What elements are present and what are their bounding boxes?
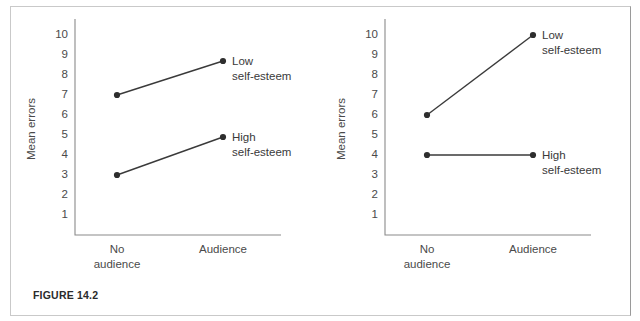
- x-axis-tick-label: No: [420, 243, 435, 255]
- series-line: [117, 61, 223, 95]
- chart-series: Lowself-esteem: [424, 29, 602, 118]
- series-data-point: [424, 112, 430, 118]
- chart-series: Highself-esteem: [114, 131, 292, 178]
- y-axis-title: Mean errors: [25, 98, 37, 160]
- y-axis-tick-label: 10: [55, 28, 68, 40]
- y-axis-tick-label: 9: [372, 48, 378, 60]
- series-inline-label: self-esteem: [542, 44, 601, 56]
- x-axis-tick-label: No: [110, 243, 125, 255]
- charts-row: 12345678910Mean errorsNoaudienceAudience…: [11, 7, 630, 282]
- y-axis-tick-label: 5: [372, 128, 378, 140]
- y-axis-tick-label: 7: [372, 88, 378, 100]
- y-axis-tick-label: 1: [62, 208, 68, 220]
- y-axis-tick-label: 2: [372, 188, 378, 200]
- series-data-point: [114, 92, 120, 98]
- chart-series: Highself-esteem: [424, 149, 602, 176]
- y-axis-tick-label: 5: [62, 128, 68, 140]
- y-axis-tick-label: 7: [62, 88, 68, 100]
- series-line: [117, 137, 223, 175]
- y-axis-tick-label: 8: [62, 68, 68, 80]
- chart-panel-right: 12345678910Mean errorsNoaudienceAudience…: [323, 7, 633, 282]
- series-data-point: [220, 134, 226, 140]
- y-axis-tick-label: 8: [372, 68, 378, 80]
- y-axis-tick-label: 6: [372, 108, 378, 120]
- y-axis-tick-label: 9: [62, 48, 68, 60]
- series-data-point: [530, 32, 536, 38]
- series-data-point: [530, 152, 536, 158]
- x-axis-tick-label: audience: [404, 258, 451, 270]
- y-axis-tick-label: 10: [365, 28, 378, 40]
- y-axis-tick-label: 3: [62, 168, 68, 180]
- series-inline-label: self-esteem: [542, 164, 601, 176]
- x-axis-tick-label: Audience: [199, 243, 247, 255]
- y-axis-tick-label: 1: [372, 208, 378, 220]
- x-axis-tick-label: audience: [94, 258, 141, 270]
- series-data-point: [220, 58, 226, 64]
- y-axis-title: Mean errors: [335, 98, 347, 160]
- series-inline-label: self-esteem: [232, 146, 291, 158]
- series-inline-label: Low: [232, 55, 254, 67]
- series-data-point: [424, 152, 430, 158]
- x-axis-tick-label: Audience: [509, 243, 557, 255]
- figure-caption: FIGURE 14.2: [33, 289, 98, 301]
- chart-axes: [75, 19, 281, 235]
- y-axis-tick-label: 2: [62, 188, 68, 200]
- series-data-point: [114, 172, 120, 178]
- y-axis-tick-label: 4: [372, 148, 379, 160]
- y-axis-tick-label: 6: [62, 108, 68, 120]
- figure-frame: 12345678910Mean errorsNoaudienceAudience…: [10, 6, 631, 316]
- chart-panel-left: 12345678910Mean errorsNoaudienceAudience…: [13, 7, 323, 282]
- chart-series: Lowself-esteem: [114, 55, 292, 98]
- y-axis-tick-label: 3: [372, 168, 378, 180]
- line-chart-left: 12345678910Mean errorsNoaudienceAudience…: [13, 7, 323, 282]
- series-inline-label: High: [542, 149, 566, 161]
- series-inline-label: Low: [542, 29, 564, 41]
- series-inline-label: self-esteem: [232, 70, 291, 82]
- line-chart-right: 12345678910Mean errorsNoaudienceAudience…: [323, 7, 633, 282]
- y-axis-tick-label: 4: [62, 148, 69, 160]
- series-line: [427, 35, 533, 115]
- series-inline-label: High: [232, 131, 256, 143]
